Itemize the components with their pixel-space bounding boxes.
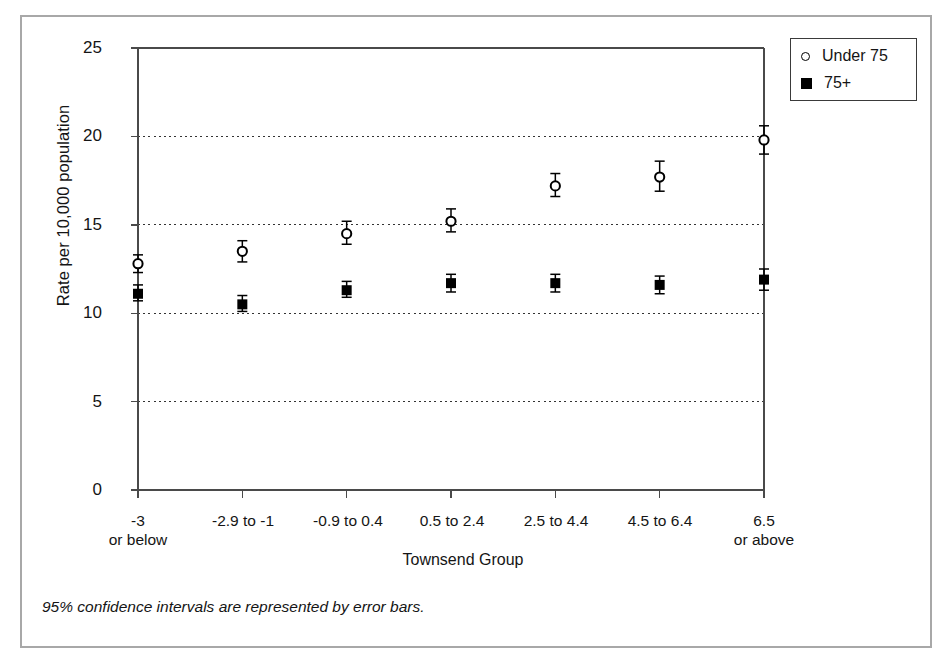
x-tick-label-6: 6.5 or above bbox=[699, 511, 829, 549]
x-tick-line1: 6.5 bbox=[699, 511, 829, 530]
x-tick-line2: or below bbox=[73, 530, 203, 549]
data-series-layer bbox=[133, 126, 769, 312]
gridlines bbox=[138, 136, 764, 401]
chart-footnote: 95% confidence intervals are represented… bbox=[42, 598, 425, 616]
legend-label-75-plus: 75+ bbox=[824, 74, 851, 92]
open-circle-icon bbox=[801, 52, 810, 61]
plot-region: Rate per 10,000 population 25 20 15 10 5… bbox=[0, 0, 944, 661]
legend-item-75-plus: 75+ bbox=[801, 72, 851, 94]
chart-figure: Rate per 10,000 population 25 20 15 10 5… bbox=[0, 0, 944, 661]
axes bbox=[131, 48, 764, 490]
legend-label-under-75: Under 75 bbox=[822, 47, 888, 65]
legend: Under 75 75+ bbox=[790, 38, 917, 101]
x-axis-ticks bbox=[138, 490, 764, 498]
filled-square-icon bbox=[801, 78, 812, 89]
x-axis-title: Townsend Group bbox=[318, 551, 608, 569]
legend-item-under-75: Under 75 bbox=[801, 45, 888, 67]
x-tick-line2: or above bbox=[699, 530, 829, 549]
